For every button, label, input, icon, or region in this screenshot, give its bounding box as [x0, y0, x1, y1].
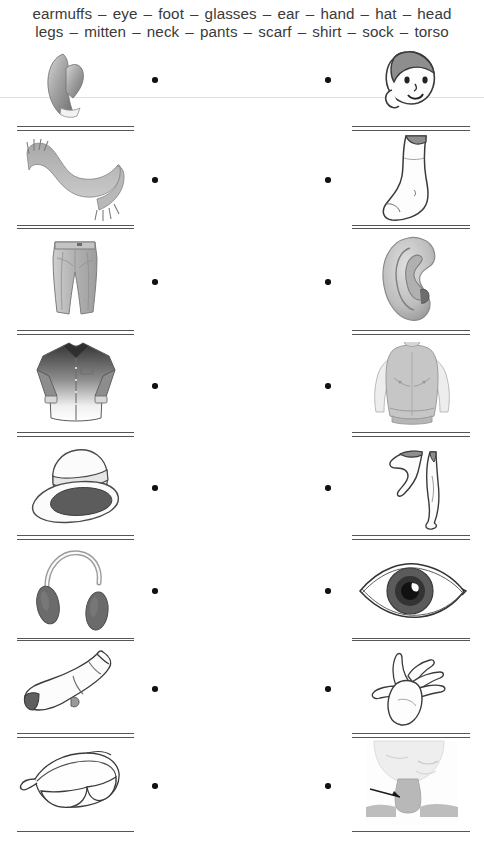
- connector-dot-right[interactable]: [325, 783, 331, 789]
- answer-line[interactable]: [17, 225, 134, 226]
- match-row: [0, 737, 484, 833]
- connector-dot-right[interactable]: [325, 383, 331, 389]
- answer-line[interactable]: [352, 330, 470, 331]
- connector-dot-left[interactable]: [152, 686, 158, 692]
- word-bank-separator: –: [292, 23, 313, 41]
- answer-line-top: [17, 130, 134, 131]
- word-bank-separator: –: [300, 5, 321, 23]
- answer-line[interactable]: [17, 126, 134, 127]
- answer-line[interactable]: [352, 638, 470, 639]
- answer-line-top: [352, 130, 470, 131]
- word-bank-word: torso: [414, 23, 448, 40]
- picture-cell-eye[interactable]: [352, 539, 470, 640]
- answer-line-top: [352, 436, 470, 437]
- word-bank-word: mitten: [84, 23, 126, 40]
- word-bank-word: foot: [158, 5, 184, 22]
- word-bank-word: head: [417, 5, 451, 22]
- connector-dot-left[interactable]: [152, 588, 158, 594]
- glasses-icon: [17, 737, 134, 833]
- answer-line[interactable]: [352, 432, 470, 433]
- word-bank-line-1: earmuffs–eye–foot–glasses–ear–hand–hat–h…: [0, 5, 484, 23]
- legs-icon: [352, 436, 470, 537]
- match-row: [0, 640, 484, 735]
- connector-dot-left[interactable]: [152, 383, 158, 389]
- hat-icon: [17, 436, 134, 537]
- match-row: [0, 46, 484, 128]
- connector-dot-left[interactable]: [152, 77, 158, 83]
- eye-icon: [352, 539, 470, 640]
- torso-icon: [352, 334, 470, 434]
- match-row: [0, 334, 484, 434]
- answer-line-top: [352, 334, 470, 335]
- sock-icon: [17, 640, 134, 735]
- connector-dot-right[interactable]: [325, 485, 331, 491]
- picture-cell-foot[interactable]: [352, 130, 470, 227]
- answer-line[interactable]: [17, 638, 134, 639]
- word-bank-separator: –: [238, 23, 259, 41]
- picture-cell-hand[interactable]: [352, 640, 470, 735]
- word-bank-separator: –: [138, 5, 159, 23]
- picture-cell-hat[interactable]: [17, 436, 134, 537]
- answer-line[interactable]: [352, 126, 470, 127]
- picture-cell-shirt[interactable]: [17, 334, 134, 434]
- picture-cell-glasses[interactable]: [17, 737, 134, 833]
- connector-dot-left[interactable]: [152, 279, 158, 285]
- answer-line-top: [352, 539, 470, 540]
- shirt-icon: [17, 334, 134, 434]
- word-bank-word: earmuffs: [33, 5, 93, 22]
- ear-icon: [352, 228, 470, 332]
- connector-dot-left[interactable]: [152, 177, 158, 183]
- connector-dot-right[interactable]: [325, 177, 331, 183]
- mitten-icon: [17, 46, 134, 128]
- picture-cell-sock[interactable]: [17, 640, 134, 735]
- word-bank-word: pants: [200, 23, 238, 40]
- scarf-icon: [17, 130, 134, 227]
- word-bank-separator: –: [355, 5, 376, 23]
- picture-cell-torso[interactable]: [352, 334, 470, 434]
- picture-cell-legs[interactable]: [352, 436, 470, 537]
- picture-cell-earmuffs[interactable]: [17, 539, 134, 640]
- match-row: [0, 436, 484, 537]
- connector-dot-right[interactable]: [325, 686, 331, 692]
- word-bank-separator: –: [126, 23, 147, 41]
- match-row: [0, 539, 484, 640]
- word-bank-separator: –: [342, 23, 363, 41]
- answer-line-top: [17, 334, 134, 335]
- answer-line[interactable]: [352, 831, 470, 832]
- word-bank-word: legs: [35, 23, 63, 40]
- answer-line[interactable]: [17, 733, 134, 734]
- picture-cell-neck[interactable]: [352, 737, 470, 833]
- answer-line[interactable]: [352, 535, 470, 536]
- word-bank-word: scarf: [258, 23, 291, 40]
- word-bank-word: sock: [362, 23, 394, 40]
- answer-line[interactable]: [352, 225, 470, 226]
- answer-line-top: [17, 640, 134, 641]
- head-icon: [352, 46, 470, 128]
- connector-dot-left[interactable]: [152, 485, 158, 491]
- answer-line-top: [17, 228, 134, 229]
- earmuffs-icon: [17, 539, 134, 640]
- connector-dot-left[interactable]: [152, 783, 158, 789]
- connector-dot-right[interactable]: [325, 279, 331, 285]
- word-bank-separator: –: [179, 23, 200, 41]
- answer-line[interactable]: [352, 733, 470, 734]
- answer-line[interactable]: [17, 330, 134, 331]
- picture-cell-scarf[interactable]: [17, 130, 134, 227]
- connector-dot-right[interactable]: [325, 77, 331, 83]
- picture-cell-ear[interactable]: [352, 228, 470, 332]
- picture-cell-head[interactable]: [352, 46, 470, 128]
- picture-cell-mitten[interactable]: [17, 46, 134, 128]
- answer-line-top: [352, 737, 470, 738]
- connector-dot-right[interactable]: [325, 588, 331, 594]
- answer-line[interactable]: [17, 535, 134, 536]
- picture-cell-pants[interactable]: [17, 228, 134, 332]
- answer-line[interactable]: [17, 432, 134, 433]
- answer-line-top: [17, 539, 134, 540]
- hand-icon: [352, 640, 470, 735]
- foot-icon: [352, 130, 470, 227]
- word-bank-word: hand: [320, 5, 354, 22]
- answer-line-top: [352, 228, 470, 229]
- word-bank-separator: –: [397, 5, 418, 23]
- word-bank-word: ear: [277, 5, 299, 22]
- answer-line[interactable]: [17, 831, 134, 832]
